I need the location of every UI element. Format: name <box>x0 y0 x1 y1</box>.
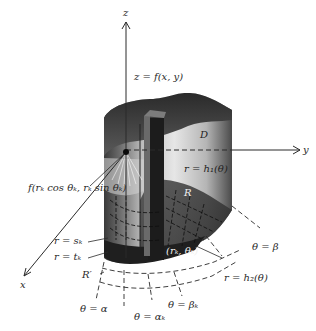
r-tk-label: r = tₖ <box>54 252 81 262</box>
point-polar-label: (rₖ, θₖ) <box>166 246 198 256</box>
z-axis-label: z <box>123 8 128 18</box>
surface-label: z = f(x, y) <box>134 72 183 82</box>
diagram-canvas <box>0 0 316 331</box>
polar-volume-diagram: z y x z = f(x, y) D r = h₁(θ) f(rₖ cos θ… <box>0 0 316 331</box>
region-d-label: D <box>200 130 208 140</box>
theta-beta-k-label: θ = βₖ <box>168 300 198 310</box>
x-axis-label: x <box>20 280 26 290</box>
theta-beta-label: θ = β <box>252 242 279 252</box>
theta-alpha-k-label: θ = αₖ <box>134 312 165 322</box>
solid-body <box>104 93 232 264</box>
r-sk-label: r = sₖ <box>54 236 82 246</box>
region-r-prime-label: R′ <box>82 270 92 280</box>
curve-h2-label: r = h₂(θ) <box>224 273 268 283</box>
point-value-label: f(rₖ cos θₖ, rₖ sin θₖ) <box>28 183 126 193</box>
region-r-label: R <box>184 188 192 198</box>
curve-h1-label: r = h₁(θ) <box>184 164 228 174</box>
theta-alpha-label: θ = α <box>80 304 108 314</box>
y-axis-label: y <box>303 145 309 155</box>
